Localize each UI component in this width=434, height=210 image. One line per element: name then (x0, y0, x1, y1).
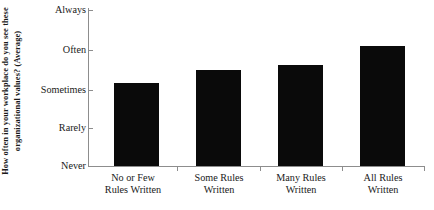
x-tick-mark-3 (342, 167, 343, 171)
bar-chart: How often in your workplace do you see t… (0, 0, 434, 210)
plot-area (88, 0, 434, 185)
x-category-label-1: Some Rules Written (174, 172, 264, 197)
x-category-label-0: No or Few Rules Written (88, 172, 178, 197)
y-tick-mark-never (89, 166, 93, 167)
y-tick-label-sometimes: Sometimes (24, 85, 86, 95)
x-category-label-2-line1: Many Rules (256, 172, 346, 184)
x-category-label-3-line1: All Rules (338, 172, 428, 184)
x-category-label-1-line1: Some Rules (174, 172, 264, 184)
x-category-label-0-line2: Rules Written (88, 184, 178, 196)
y-tick-mark-rarely (89, 128, 93, 129)
x-tick-mark-2 (260, 167, 261, 171)
y-tick-label-always: Always (24, 5, 86, 15)
x-axis-line (88, 166, 425, 167)
x-axis-category-labels: No or Few Rules Written Some Rules Writt… (88, 172, 434, 210)
bar-many-rules-written (278, 65, 323, 166)
x-tick-mark-4 (424, 167, 425, 171)
bar-some-rules-written (196, 70, 241, 166)
x-category-label-3: All Rules Written (338, 172, 428, 197)
bar-no-or-few-rules-written (114, 83, 159, 166)
x-category-label-1-line2: Written (174, 184, 264, 196)
bar-all-rules-written (360, 46, 405, 166)
y-tick-label-often: Often (24, 45, 86, 55)
y-tick-mark-sometimes (89, 90, 93, 91)
x-category-label-2: Many Rules Written (256, 172, 346, 197)
y-tick-label-never: Never (24, 161, 86, 171)
y-tick-mark-always (89, 10, 93, 11)
y-axis-line (88, 8, 89, 167)
x-tick-mark-1 (177, 167, 178, 171)
y-tick-label-rarely: Rarely (24, 123, 86, 133)
y-axis-tick-labels: Always Often Sometimes Rarely Never (20, 0, 86, 185)
x-category-label-3-line2: Written (338, 184, 428, 196)
y-tick-mark-often (89, 50, 93, 51)
x-category-label-2-line2: Written (256, 184, 346, 196)
x-category-label-0-line1: No or Few (88, 172, 178, 184)
